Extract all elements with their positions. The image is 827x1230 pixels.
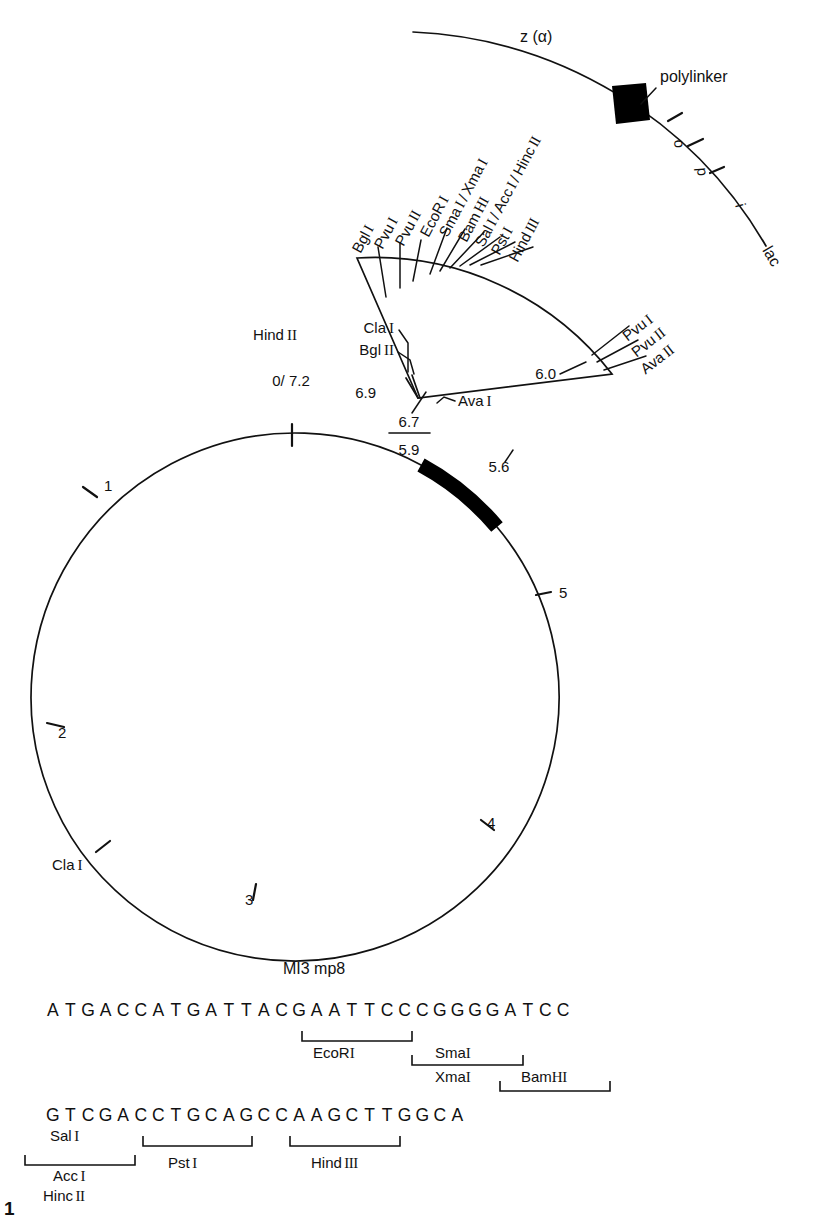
label-z-alpha: z (α) [520, 28, 552, 45]
sequence-base: A [308, 1000, 326, 1021]
site-tick-clai-circle [96, 841, 110, 852]
sequence-base: C [132, 1000, 150, 1021]
sequence-base: A [44, 1000, 62, 1021]
sequence-line-2: GTCGACCTGCAGCCAAGCTTGGCA [44, 1105, 466, 1126]
sequence-base: T [361, 1000, 379, 1021]
sequence-base: C [150, 1105, 168, 1126]
sequence-base: G [238, 1105, 256, 1126]
seq-label-smai: SmaI [435, 1044, 470, 1062]
coord-6-0: 6.0 [535, 365, 556, 382]
seq-label-xmai: XmaI [435, 1068, 470, 1086]
sequence-base: G [449, 1000, 467, 1021]
sequence-base: C [413, 1000, 431, 1021]
coord-6-9: 6.9 [355, 384, 376, 401]
sequence-base: C [431, 1105, 449, 1126]
label-clai-circle: ClaI [52, 856, 83, 873]
sequence-base: C [396, 1000, 414, 1021]
seq-label-acci: Acc I [53, 1167, 85, 1185]
sequence-base: T [361, 1105, 379, 1126]
sequence-base: C [537, 1000, 555, 1021]
sequence-base: A [150, 1000, 168, 1021]
sequence-line-1: ATGACCATGATTACGAATTCCCGGGGATCC [44, 1000, 572, 1021]
sequence-base: A [326, 1000, 344, 1021]
sequence-base: T [62, 1105, 80, 1126]
tick-label-4: 4 [487, 814, 495, 831]
seq-label-hindiii: Hind III [311, 1154, 358, 1172]
sequence-base: A [202, 1000, 220, 1021]
label-polylinker: polylinker [660, 68, 728, 85]
restriction-map-svg: .ln{stroke:#111111;fill:none;stroke-line… [0, 0, 827, 1230]
tick-label-3: 3 [245, 891, 253, 908]
sequence-base: A [449, 1105, 467, 1126]
sequence-base: A [255, 1000, 273, 1021]
sequence-base: C [273, 1000, 291, 1021]
expansion-wedge [357, 257, 612, 398]
tick-label-1: 1 [104, 477, 112, 494]
seq-label-ecori: EcoRI [313, 1044, 354, 1062]
sequence-base: A [308, 1105, 326, 1126]
label-lac-o: o [671, 139, 689, 149]
sequence-base: T [238, 1000, 256, 1021]
sequence-base: C [378, 1000, 396, 1021]
sequence-base: A [290, 1105, 308, 1126]
sequence-base: T [220, 1000, 238, 1021]
label-position-zero: 0/ 7.2 [272, 372, 310, 389]
label-bglii-apex: BglII [359, 341, 394, 358]
sequence-base: C [114, 1000, 132, 1021]
label-clai-apex: ClaI [363, 319, 394, 336]
tick-label-2: 2 [58, 724, 66, 741]
sequence-base: C [273, 1105, 291, 1126]
seq-label-psti: Pst I [168, 1154, 197, 1172]
sequence-base: A [501, 1000, 519, 1021]
label-hind-ii-circle: HindII [253, 326, 297, 343]
sequence-base: G [413, 1105, 431, 1126]
polylinker-block [612, 83, 650, 124]
sequence-base: C [255, 1105, 273, 1126]
sequence-base: G [185, 1000, 203, 1021]
sequence-base: T [519, 1000, 537, 1021]
sequence-base: T [378, 1105, 396, 1126]
sequence-base: A [97, 1000, 115, 1021]
sequence-base: C [554, 1000, 572, 1021]
seq-label-hincii: Hinc II [43, 1187, 85, 1205]
tick-label-5: 5 [559, 584, 567, 601]
sequence-base: A [114, 1105, 132, 1126]
sequence-base: G [79, 1000, 97, 1021]
sequence-base: C [132, 1105, 150, 1126]
coord-5-9: 5.9 [399, 441, 420, 458]
label-avai: AvaI [458, 392, 492, 409]
sequence-base: G [290, 1000, 308, 1021]
figure-m13-mp8-map: .ln{stroke:#111111;fill:none;stroke-line… [0, 0, 827, 1230]
sequence-base: G [466, 1000, 484, 1021]
sequence-base: C [202, 1105, 220, 1126]
sequence-base: G [431, 1000, 449, 1021]
sequence-base: G [396, 1105, 414, 1126]
sequence-base: G [326, 1105, 344, 1126]
sequence-base: C [79, 1105, 97, 1126]
left-apex-leaders [398, 330, 414, 374]
sequence-base: T [62, 1000, 80, 1021]
seq-label-bamhi: BamHI [521, 1068, 567, 1086]
sequence-base: C [343, 1105, 361, 1126]
coord-6-7: 6.7 [399, 413, 420, 430]
figure-number: 1 [4, 1199, 15, 1218]
tick-3 [253, 884, 256, 900]
insert-arc [421, 465, 497, 527]
seq-label-sali: Sal I [50, 1127, 79, 1145]
figure-caption-title: MI3 mp8 [283, 960, 345, 978]
label-lac-operon: lac [759, 243, 784, 269]
sequence-base: T [343, 1000, 361, 1021]
tick-1 [83, 487, 97, 497]
sequence-base: G [44, 1105, 62, 1126]
sequence-base: T [167, 1105, 185, 1126]
label-lac-p: p [694, 167, 712, 177]
sequence-base: G [97, 1105, 115, 1126]
sequence-base: A [220, 1105, 238, 1126]
sequence-base: T [167, 1000, 185, 1021]
sequence-base: G [484, 1000, 502, 1021]
sequence-base: G [185, 1105, 203, 1126]
